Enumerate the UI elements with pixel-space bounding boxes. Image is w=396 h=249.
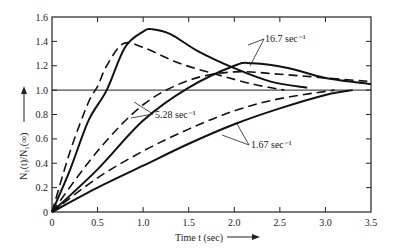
x-tick-label: 2.5	[274, 217, 287, 228]
curves	[52, 29, 371, 212]
y-axis-label: N₁(t)/N₁(∞)	[18, 86, 30, 180]
x-tick-label: 1.0	[137, 217, 150, 228]
curve-3	[52, 72, 371, 212]
arrow-right-icon	[252, 234, 260, 240]
annotation-1-67-label: 1.67 sec⁻¹	[251, 139, 292, 150]
y-axis-title: N₁(t)/N₁(∞)	[18, 133, 30, 180]
y-tick-label: 0.6	[36, 133, 49, 144]
tick-marks	[52, 17, 371, 212]
annotation-1-67: 1.67 sec⁻¹	[222, 122, 292, 150]
y-tick-label: 1.4	[36, 36, 49, 47]
chart: 00.51.01.52.02.53.03.500.20.40.60.81.01.…	[0, 0, 396, 249]
y-tick-label: 1.2	[36, 60, 49, 71]
x-tick-label: 1.5	[182, 217, 195, 228]
x-axis-label: Time t (sec)	[175, 232, 260, 244]
y-tick-label: 0.2	[36, 182, 49, 193]
y-tick-label: 1.0	[36, 85, 49, 96]
x-axis-title: Time t (sec)	[175, 232, 223, 244]
annotation-16-7-label: 16.7 sec⁻¹	[265, 33, 306, 44]
y-tick-label: 0.8	[36, 109, 49, 120]
y-tick-label: 1.6	[36, 12, 49, 23]
x-tick-label: 3.0	[319, 217, 332, 228]
annotation-16-7: 16.7 sec⁻¹	[248, 33, 306, 66]
x-tick-label: 2.0	[228, 217, 241, 228]
x-tick-label: 0	[50, 217, 55, 228]
x-tick-label: 3.5	[365, 217, 378, 228]
curve-1	[52, 43, 284, 212]
curve-2	[52, 63, 371, 212]
y-tick-label: 0.4	[36, 158, 49, 169]
y-tick-label: 0	[43, 207, 48, 218]
x-tick-label: 0.5	[91, 217, 104, 228]
arrow-up-icon	[21, 86, 27, 94]
tick-labels: 00.51.01.52.02.53.03.500.20.40.60.81.01.…	[36, 12, 378, 229]
plot-frame	[52, 17, 371, 212]
curve-0	[52, 29, 307, 212]
annotation-5-28-label: 5.28 sec⁻¹	[155, 109, 196, 120]
